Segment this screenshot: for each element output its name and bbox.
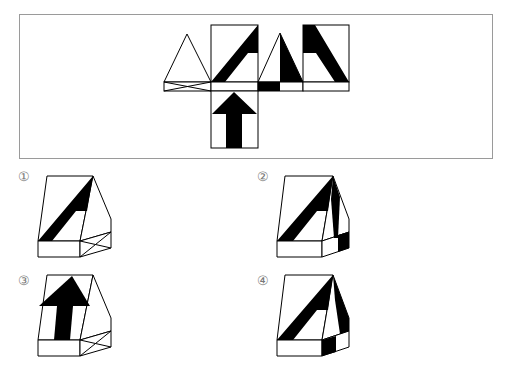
option-2-figure	[277, 176, 349, 257]
option-4-figure	[277, 275, 349, 356]
option-4-label[interactable]: ④	[257, 274, 269, 287]
option-1-label[interactable]: ①	[18, 170, 30, 183]
option-3-label[interactable]: ③	[18, 274, 30, 287]
net-left-triangle	[164, 34, 211, 82]
net-diagram	[0, 0, 509, 378]
option-1-figure	[38, 176, 111, 257]
net-front-strip	[211, 82, 258, 91]
net-back-strip	[303, 82, 349, 91]
option-2-label[interactable]: ②	[257, 170, 269, 183]
option-3-figure	[38, 275, 111, 356]
